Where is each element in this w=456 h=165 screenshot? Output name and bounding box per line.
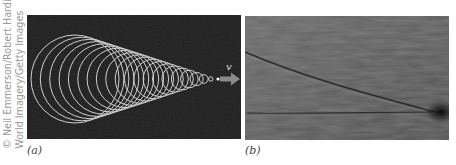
credit-line-1: © Neil Emmerson/Robert Harding [2,0,14,149]
velocity-label: v [226,61,232,72]
figure-panel-b-boat-wake-photo [245,16,449,140]
panel-label-b: (b) [245,144,261,157]
credit-line-2: World Imagery/Getty Images [13,0,25,149]
figure-panel-a-wavefront-diagram: v [27,15,241,139]
panel-label-a: (a) [27,144,42,157]
photo-credit: © Neil Emmerson/Robert Harding World Ima… [0,0,26,135]
shock-wave-cone-diagram: v [27,15,241,139]
source-point [216,77,219,80]
boat-wake-photo [245,16,449,140]
